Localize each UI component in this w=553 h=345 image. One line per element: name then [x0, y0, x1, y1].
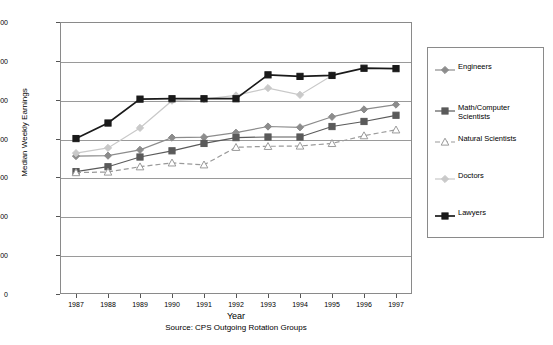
data-point-marker — [201, 96, 207, 102]
legend-marker-diamond-icon — [434, 171, 456, 183]
data-point-marker — [73, 135, 79, 141]
data-point-marker — [297, 73, 303, 79]
legend-marker-triangle-icon — [434, 134, 456, 146]
data-point-marker — [296, 124, 303, 131]
legend-item-doctors[interactable]: Doctors — [434, 171, 542, 183]
chart-page: 0200400600800100012001400198719881989199… — [0, 0, 553, 345]
data-point-marker — [201, 140, 207, 146]
data-point-marker — [361, 65, 367, 71]
data-point-marker — [392, 101, 399, 108]
data-point-marker — [265, 72, 271, 78]
data-point-marker — [393, 112, 399, 118]
data-point-marker — [264, 123, 271, 130]
data-point-marker — [104, 144, 111, 151]
series-line — [76, 68, 396, 138]
data-point-marker — [329, 123, 335, 129]
data-point-marker — [169, 96, 175, 102]
data-point-marker — [328, 113, 335, 120]
data-point-marker — [329, 72, 335, 78]
data-point-marker — [296, 91, 303, 98]
data-point-marker — [105, 120, 111, 126]
legend-item-label: Natural Scientists — [456, 134, 516, 143]
legend-marker-square-icon — [434, 103, 456, 115]
data-point-marker — [104, 152, 111, 159]
data-point-marker — [233, 135, 239, 141]
legend-item-label: Engineers — [456, 62, 492, 71]
data-point-marker — [200, 134, 207, 141]
data-point-marker — [233, 96, 239, 102]
legend-marker-square-icon — [434, 208, 456, 220]
data-point-marker — [136, 146, 143, 153]
legend-item-lawyers[interactable]: Lawyers — [434, 208, 542, 220]
data-point-marker — [168, 134, 175, 141]
data-point-marker — [392, 126, 400, 133]
data-point-marker — [137, 154, 143, 160]
legend-marker-diamond-icon — [434, 62, 456, 74]
chart-container: 0200400600800100012001400198719881989199… — [0, 0, 425, 345]
data-point-marker — [264, 84, 271, 91]
data-point-marker — [361, 118, 367, 124]
data-point-marker — [200, 161, 208, 168]
data-point-marker — [297, 134, 303, 140]
data-point-marker — [169, 148, 175, 154]
legend-item-natural-scientists[interactable]: Natural Scientists — [434, 134, 542, 146]
data-point-marker — [360, 106, 367, 113]
legend-item-label: Math/Computer Scientists — [456, 103, 542, 121]
series-layer — [0, 0, 425, 345]
legend-item-engineers[interactable]: Engineers — [434, 62, 542, 74]
legend-item-label: Lawyers — [456, 208, 486, 217]
data-point-marker — [232, 144, 240, 151]
legend-item-math-computer-scientists[interactable]: Math/Computer Scientists — [434, 103, 542, 121]
data-point-marker — [137, 96, 143, 102]
data-point-marker — [393, 66, 399, 72]
data-point-marker — [265, 134, 271, 140]
legend-item-label: Doctors — [456, 171, 484, 180]
chart-legend: EngineersMath/Computer ScientistsNatural… — [427, 47, 544, 238]
